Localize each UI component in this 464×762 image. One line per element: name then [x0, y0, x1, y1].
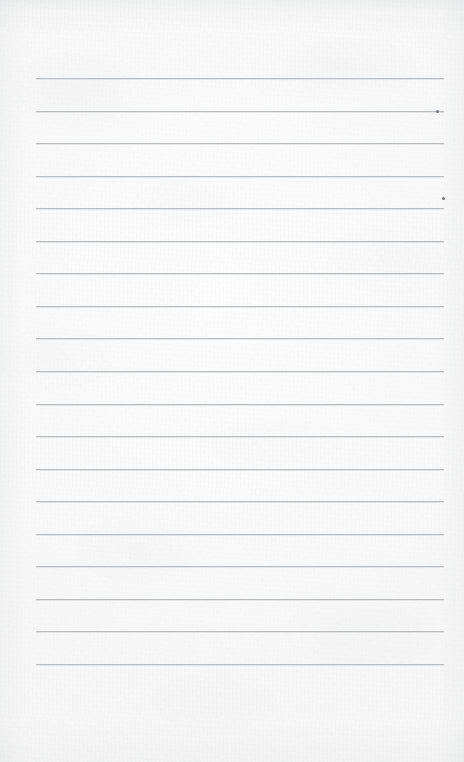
- ruled-line: [36, 78, 444, 79]
- ruled-line: [36, 664, 444, 665]
- ruled-line: [36, 338, 444, 339]
- ruled-line: [36, 404, 444, 405]
- ruled-line: [36, 241, 444, 242]
- ruled-line: [36, 436, 444, 437]
- ruled-line: [36, 273, 444, 274]
- speck-above-line-5: [442, 197, 445, 200]
- ruled-line: [36, 534, 444, 535]
- ruled-line: [36, 143, 444, 144]
- ruled-line: [36, 469, 444, 470]
- ruled-line: [36, 631, 444, 632]
- ruled-paper-page: [0, 0, 464, 762]
- ruled-line: [36, 599, 444, 600]
- ruled-line: [36, 111, 444, 112]
- ruled-line: [36, 208, 444, 209]
- ruled-line: [36, 306, 444, 307]
- ruled-line: [36, 501, 444, 502]
- ruled-line: [36, 371, 444, 372]
- speck-on-line-2: [436, 110, 439, 113]
- ruled-line: [36, 176, 444, 177]
- ruled-lines-group: [0, 0, 464, 762]
- ruled-line: [36, 566, 444, 567]
